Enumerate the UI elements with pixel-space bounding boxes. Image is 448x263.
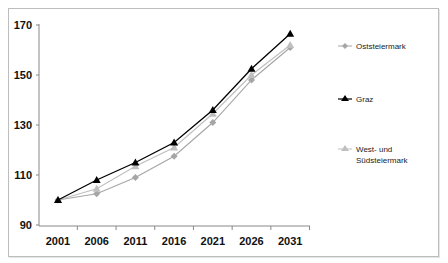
diamond-marker-icon [342, 43, 348, 49]
triangle-marker-icon [286, 30, 294, 37]
legend-label: Graz [356, 95, 373, 104]
line-chart: 90110130150170 2001200620112016202120262… [0, 0, 448, 263]
triangle-marker-icon [341, 95, 349, 101]
series-oststeiermark [55, 44, 294, 204]
legend-label: West- und [356, 145, 392, 154]
x-tick-label: 2021 [201, 235, 225, 247]
legend-label: Südsteiermark [356, 156, 409, 165]
legend-item-oststeiermark: Oststeiermark [338, 42, 407, 51]
triangle-marker-icon [93, 176, 101, 183]
y-tick-label: 130 [14, 119, 32, 131]
x-tick-label: 2016 [162, 235, 186, 247]
triangle-marker-icon [341, 145, 349, 151]
legend-item-west-suedsteiermark: West- und Südsteiermark [338, 145, 409, 165]
series-graz [54, 30, 294, 203]
y-tick-label: 90 [20, 219, 32, 231]
triangle-marker-icon [93, 185, 101, 192]
legend: Oststeiermark Graz West- und Südsteierma… [338, 42, 409, 165]
y-tick-label: 150 [14, 69, 32, 81]
x-tick-label: 2001 [46, 235, 70, 247]
y-tick-label: 170 [14, 19, 32, 31]
series-west-und-s-dsteiermark [54, 41, 294, 203]
x-tick-label: 2026 [239, 235, 263, 247]
x-tick-label: 2006 [84, 235, 108, 247]
y-tick-label: 110 [14, 169, 32, 181]
x-tick-label: 2011 [123, 235, 147, 247]
x-tick-label: 2031 [278, 235, 302, 247]
diamond-marker-icon [132, 174, 139, 181]
legend-label: Oststeiermark [356, 42, 407, 51]
triangle-marker-icon [286, 41, 294, 48]
triangle-marker-icon [131, 159, 139, 166]
legend-item-graz: Graz [338, 95, 373, 104]
